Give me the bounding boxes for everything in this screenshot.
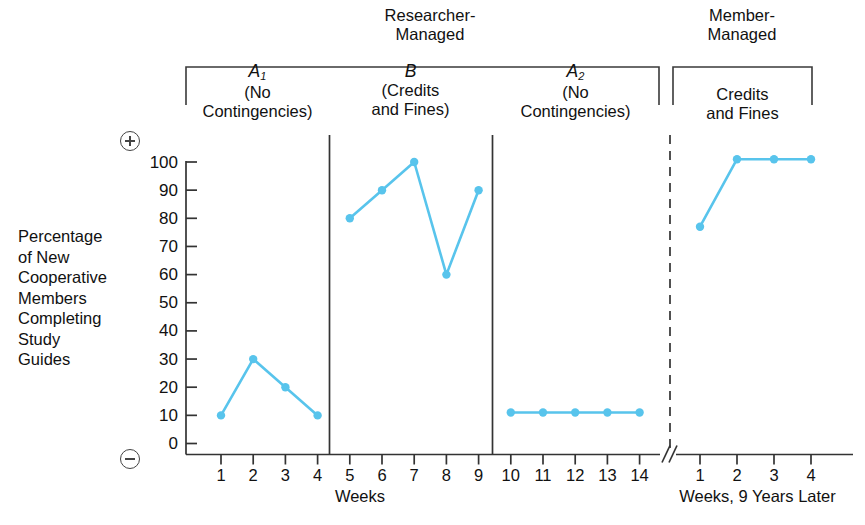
data-point[interactable]	[217, 411, 225, 419]
data-point[interactable]	[346, 214, 354, 222]
data-line-1	[350, 162, 479, 275]
data-point[interactable]	[733, 155, 741, 163]
axis-break-mark	[669, 446, 677, 463]
plot-area	[0, 0, 865, 525]
axis-break-mark	[662, 446, 670, 463]
x-axis-name-right: Weeks, 9 Years Later	[650, 487, 865, 506]
data-point[interactable]	[696, 223, 704, 231]
data-point[interactable]	[378, 186, 386, 194]
data-point[interactable]	[410, 158, 418, 166]
x-axis-name-left: Weeks	[280, 487, 440, 506]
data-point[interactable]	[571, 408, 579, 416]
data-point[interactable]	[313, 411, 321, 419]
data-line-0	[221, 359, 318, 415]
data-point[interactable]	[507, 408, 515, 416]
data-point[interactable]	[603, 408, 611, 416]
data-point[interactable]	[442, 270, 450, 278]
data-point[interactable]	[249, 355, 257, 363]
figure-panel: Researcher- Managed Member- Managed A1 (…	[0, 0, 865, 525]
data-point[interactable]	[635, 408, 643, 416]
data-point[interactable]	[807, 155, 815, 163]
data-line-3	[700, 159, 811, 227]
data-point[interactable]	[474, 186, 482, 194]
data-point[interactable]	[539, 408, 547, 416]
data-point[interactable]	[281, 383, 289, 391]
data-point[interactable]	[770, 155, 778, 163]
